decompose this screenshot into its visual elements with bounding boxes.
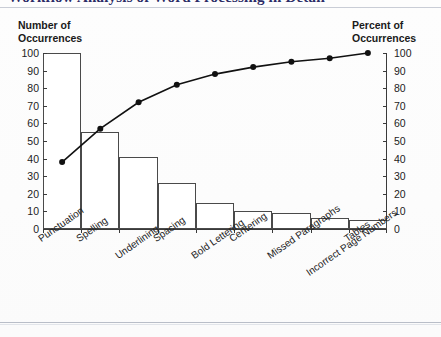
cumulative-point-centering: [250, 64, 256, 70]
right-axis-tick-mark: [383, 88, 387, 89]
right-axis-tick-mark: [383, 194, 387, 195]
right-axis-tick-label: 100: [394, 48, 420, 59]
right-axis-caption: Percent of Occurrences: [352, 19, 416, 44]
left-axis-tick-label: 40: [13, 154, 39, 165]
right-axis-tick-label: 0: [394, 224, 420, 235]
left-axis-tick-mark: [43, 141, 47, 142]
right-axis-tick-labels: 1009080706050403020100: [394, 53, 422, 229]
cumulative-point-spelling: [97, 126, 103, 132]
left-axis-tick-mark: [43, 194, 47, 195]
left-axis-tick-label: 30: [13, 171, 39, 182]
left-axis-tick-mark: [43, 176, 47, 177]
document-title-text: Workflow Analysis of Word Processing in …: [8, 0, 325, 5]
right-axis-tick-mark: [383, 141, 387, 142]
left-axis-tick-label: 100: [13, 48, 39, 59]
left-axis-tick-mark: [43, 88, 47, 89]
category-tick: [196, 229, 197, 233]
left-axis-caption-line2: Occurrences: [18, 32, 82, 45]
right-axis-tick-mark: [383, 229, 387, 230]
right-axis-tick-label: 40: [394, 154, 420, 165]
right-axis-tick-label: 50: [394, 136, 420, 147]
cumulative-point-tables: [365, 50, 371, 56]
title-divider-rule: [0, 7, 441, 8]
left-axis-tick-label: 80: [13, 83, 39, 94]
cumulative-line-markers: [59, 50, 371, 165]
left-axis-tick-label: 70: [13, 101, 39, 112]
category-tick: [119, 229, 120, 233]
cumulative-point-spacing: [174, 82, 180, 88]
left-axis-tick-label: 10: [13, 206, 39, 217]
cumulative-point-punctuation: [59, 159, 65, 165]
category-tick: [272, 229, 273, 233]
right-axis-tick-label: 30: [394, 171, 420, 182]
right-axis-tick-mark: [383, 53, 387, 54]
cumulative-point-bold-lettering: [212, 71, 218, 77]
left-axis-tick-label: 20: [13, 189, 39, 200]
right-axis-tick-mark: [383, 71, 387, 72]
right-axis-caption-line1: Percent of: [352, 19, 416, 32]
right-axis-tick-mark: [383, 106, 387, 107]
left-axis-tick-mark: [43, 159, 47, 160]
left-axis-tick-label: 60: [13, 118, 39, 129]
right-axis-tick-mark: [383, 123, 387, 124]
right-axis-tick-label: 20: [394, 189, 420, 200]
cumulative-point-underlining: [136, 99, 142, 105]
left-axis-tick-mark: [43, 53, 47, 54]
right-axis-tick-mark: [383, 159, 387, 160]
left-axis-tick-labels: 1009080706050403020100: [11, 53, 39, 229]
document-title: Workflow Analysis of Word Processing in …: [8, 0, 325, 6]
right-axis-tick-mark: [383, 176, 387, 177]
right-axis-tick-label: 70: [394, 101, 420, 112]
left-axis-tick-mark: [43, 71, 47, 72]
cumulative-point-missed-paragraphs: [288, 59, 294, 65]
cumulative-point-incorrect-page-numbers: [327, 55, 333, 61]
right-axis-tick-label: 60: [394, 118, 420, 129]
left-axis-tick-label: 0: [13, 224, 39, 235]
document-title-strip: Workflow Analysis of Word Processing in …: [0, 0, 441, 7]
left-axis-tick-mark: [43, 123, 47, 124]
page-canvas: Workflow Analysis of Word Processing in …: [0, 0, 441, 337]
left-axis-tick-label: 50: [13, 136, 39, 147]
left-axis-caption-line1: Number of: [18, 19, 82, 32]
right-axis-tick-label: 90: [394, 66, 420, 77]
left-axis-tick-mark: [43, 211, 47, 212]
footer-rule: [0, 322, 441, 323]
footer-rule-shadow: [0, 324, 441, 325]
left-axis-caption: Number of Occurrences: [18, 19, 82, 44]
cumulative-line-path: [62, 53, 368, 162]
left-axis-tick-label: 90: [13, 66, 39, 77]
right-axis-caption-line2: Occurrences: [352, 32, 416, 45]
right-axis-tick-label: 80: [394, 83, 420, 94]
left-axis-tick-mark: [43, 106, 47, 107]
